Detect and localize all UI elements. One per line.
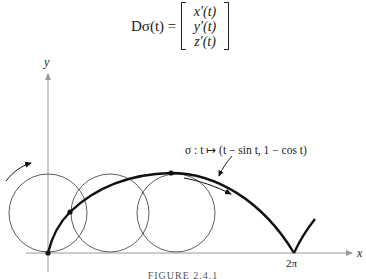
curve-annotation: σ : t ↦ (t − sin t, 1 − cos t) <box>185 143 307 157</box>
marked-point-origin <box>45 250 50 255</box>
marked-point-mid <box>67 209 72 214</box>
x-tick-2pi: 2π <box>286 257 297 269</box>
cycloid-next-arch <box>294 219 315 253</box>
cycloid-figure <box>0 0 366 279</box>
cycloid-curve <box>48 173 294 253</box>
x-axis-label: x <box>357 246 362 261</box>
rotation-arrow-icon <box>6 163 31 181</box>
y-axis-label: y <box>44 55 49 70</box>
marked-point-peak <box>168 170 173 175</box>
annotation-leader-arrow-icon <box>219 156 232 176</box>
figure-caption: FIGURE 2.4.1 <box>0 270 366 279</box>
